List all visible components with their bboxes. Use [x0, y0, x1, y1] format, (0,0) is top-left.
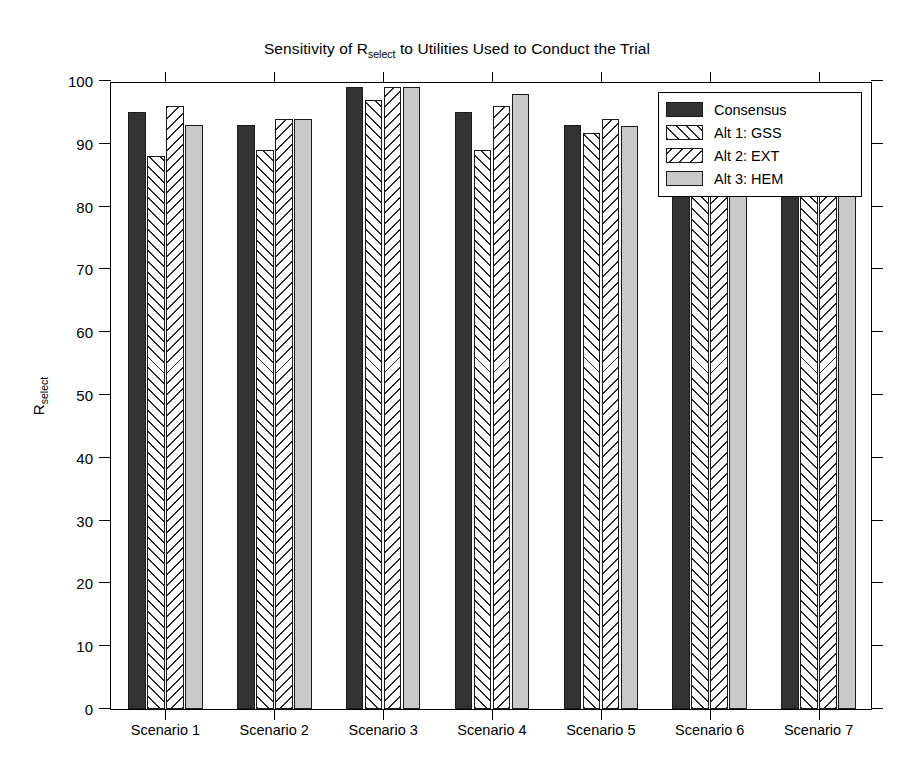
bar: [838, 183, 856, 709]
x-tick-mark: [710, 709, 711, 720]
bar-group: [237, 83, 312, 709]
y-tick-mark-right: [871, 80, 883, 81]
y-tick-label: 30: [76, 512, 93, 529]
bar: [384, 87, 402, 709]
bar-group: [128, 83, 203, 709]
y-tick-mark-right: [871, 394, 883, 395]
bar: [403, 87, 421, 709]
y-tick-mark: [99, 331, 111, 332]
x-tick-mark: [383, 709, 384, 720]
bar: [691, 144, 709, 709]
y-tick-mark-right: [871, 457, 883, 458]
bar: [365, 100, 383, 709]
y-tick-label: 70: [76, 261, 93, 278]
y-tick-label: 40: [76, 449, 93, 466]
y-tick-label: 80: [76, 198, 93, 215]
y-tick-mark: [99, 268, 111, 269]
y-tick-mark: [99, 394, 111, 395]
y-tick-label: 60: [76, 324, 93, 341]
y-tick-mark: [99, 582, 111, 583]
bar: [512, 94, 530, 709]
x-tick-label: Scenario 2: [240, 722, 309, 738]
bar-group: [346, 83, 421, 709]
bar-group: [455, 83, 530, 709]
bar: [672, 150, 690, 709]
bar: [474, 150, 492, 709]
y-axis-title-subscript: select: [38, 377, 50, 404]
bar: [781, 156, 799, 709]
y-axis-title-base: R: [30, 404, 47, 415]
chart-title: Sensitivity of Rselect to Utilities Used…: [0, 40, 914, 60]
legend-swatch: [666, 148, 703, 163]
chart-title-pre: Sensitivity of R: [264, 40, 368, 57]
bar: [455, 112, 473, 709]
bar-group: [564, 83, 639, 709]
y-tick-mark: [99, 708, 111, 709]
x-tick-mark-top: [710, 72, 711, 83]
x-tick-mark: [165, 709, 166, 720]
legend-label: Alt 3: HEM: [714, 171, 783, 187]
x-tick-label: Scenario 7: [784, 722, 853, 738]
legend-swatch: [666, 125, 703, 140]
y-tick-mark-right: [871, 582, 883, 583]
x-tick-label: Scenario 3: [348, 722, 417, 738]
y-tick-mark-right: [871, 268, 883, 269]
bar: [256, 150, 274, 709]
y-tick-mark-right: [871, 708, 883, 709]
bar: [166, 106, 184, 709]
bar: [294, 119, 312, 709]
legend-swatch: [666, 171, 703, 186]
bar: [147, 156, 165, 709]
bar: [493, 106, 511, 709]
y-tick-mark: [99, 143, 111, 144]
legend-swatch: [666, 102, 703, 117]
x-tick-mark-top: [492, 72, 493, 83]
y-tick-mark-right: [871, 645, 883, 646]
legend-label: Consensus: [714, 102, 787, 118]
bar: [128, 112, 146, 709]
x-tick-mark-top: [601, 72, 602, 83]
legend-label: Alt 1: GSS: [714, 125, 782, 141]
x-tick-mark-top: [165, 72, 166, 83]
x-tick-label: Scenario 5: [566, 722, 635, 738]
x-tick-mark-top: [819, 72, 820, 83]
legend-item[interactable]: Alt 3: HEM: [666, 167, 854, 190]
bar: [621, 126, 639, 709]
x-tick-label: Scenario 6: [675, 722, 744, 738]
x-tick-label: Scenario 1: [131, 722, 200, 738]
y-tick-mark: [99, 645, 111, 646]
x-tick-mark-top: [383, 72, 384, 83]
bar: [602, 119, 620, 709]
x-tick-mark: [274, 709, 275, 720]
chart-legend: ConsensusAlt 1: GSSAlt 2: EXTAlt 3: HEM: [658, 92, 862, 197]
x-tick-mark: [819, 709, 820, 720]
bar: [819, 144, 837, 709]
y-tick-mark: [99, 80, 111, 81]
y-tick-mark-right: [871, 520, 883, 521]
x-tick-mark-top: [274, 72, 275, 83]
y-tick-label: 20: [76, 575, 93, 592]
bar: [583, 133, 601, 710]
bar: [346, 87, 364, 709]
chart-title-subscript: select: [368, 48, 395, 60]
y-tick-label: 100: [68, 73, 93, 90]
bar: [275, 119, 293, 709]
y-tick-label: 90: [76, 135, 93, 152]
legend-item[interactable]: Alt 2: EXT: [666, 144, 854, 167]
y-tick-mark: [99, 457, 111, 458]
y-tick-mark: [99, 206, 111, 207]
y-tick-mark-right: [871, 331, 883, 332]
bar: [729, 144, 747, 709]
legend-item[interactable]: Alt 1: GSS: [666, 121, 854, 144]
bar: [564, 125, 582, 709]
y-tick-label: 0: [85, 701, 93, 718]
y-tick-mark: [99, 520, 111, 521]
legend-item[interactable]: Consensus: [666, 98, 854, 121]
chart-title-post: to Utilities Used to Conduct the Trial: [395, 40, 650, 57]
x-tick-mark: [601, 709, 602, 720]
bar: [237, 125, 255, 709]
figure-canvas: Sensitivity of Rselect to Utilities Used…: [0, 0, 914, 767]
y-tick-mark-right: [871, 206, 883, 207]
legend-label: Alt 2: EXT: [714, 148, 779, 164]
y-tick-label: 50: [76, 387, 93, 404]
